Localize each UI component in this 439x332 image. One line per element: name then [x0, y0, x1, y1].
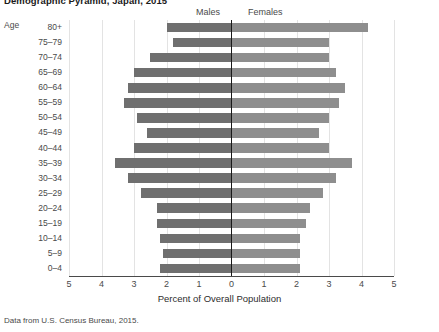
- bar-male: [128, 173, 232, 183]
- y-axis-label: 0–4: [48, 263, 62, 273]
- chart-title: Demographic Pyramid, Japan, 2015: [4, 0, 167, 6]
- bar-female: [232, 264, 300, 274]
- bar-male: [147, 128, 232, 138]
- bar-female: [232, 98, 339, 108]
- bar-female: [232, 38, 330, 48]
- y-axis-label: 10–14: [38, 233, 62, 243]
- bar-male: [160, 234, 232, 244]
- x-axis-tick-labels: 54321012345: [69, 279, 394, 293]
- bar-male: [160, 264, 232, 274]
- bar-female: [232, 53, 330, 63]
- bar-male: [150, 53, 231, 63]
- bar-female: [232, 158, 352, 168]
- bar-male: [115, 158, 232, 168]
- bar-male: [134, 68, 232, 78]
- bar-male: [163, 249, 231, 259]
- y-axis-label: 40–44: [38, 143, 62, 153]
- bar-male: [157, 203, 232, 213]
- y-axis-label: 25–29: [38, 188, 62, 198]
- y-axis-label: 45–49: [38, 127, 62, 137]
- y-axis-label: 20–24: [38, 203, 62, 213]
- y-axis-label: 35–39: [38, 158, 62, 168]
- y-axis-label: 50–54: [38, 112, 62, 122]
- bar-male: [167, 23, 232, 33]
- bar-female: [232, 143, 330, 153]
- source-note: Data from U.S. Census Bureau, 2015.: [4, 316, 139, 325]
- x-axis-tick-label: 1: [196, 279, 201, 289]
- bar-female: [232, 128, 320, 138]
- y-axis-label: 60–64: [38, 82, 62, 92]
- bar-male: [137, 113, 231, 123]
- center-axis-line: [231, 20, 233, 276]
- y-axis-labels: 80+75–7970–7465–6960–6455–5950–5445–4940…: [0, 20, 66, 276]
- bar-male: [124, 98, 231, 108]
- bar-female: [232, 173, 336, 183]
- legend-label-females: Females: [248, 7, 283, 17]
- bar-male: [128, 83, 232, 93]
- bar-female: [232, 83, 346, 93]
- x-axis-tick-label: 4: [99, 279, 104, 289]
- bar-female: [232, 234, 300, 244]
- y-axis-label: 75–79: [38, 37, 62, 47]
- bar-female: [232, 188, 323, 198]
- bar-female: [232, 68, 336, 78]
- bar-female: [232, 249, 300, 259]
- gridline: [394, 20, 395, 276]
- x-axis-tick-label: 0: [229, 279, 234, 289]
- x-axis-tick-label: 3: [326, 279, 331, 289]
- y-axis-label: 70–74: [38, 52, 62, 62]
- y-axis-label: 15–19: [38, 218, 62, 228]
- x-axis-tick-label: 5: [66, 279, 71, 289]
- chart-legend: Males Females: [0, 7, 439, 20]
- y-axis-label: 30–34: [38, 173, 62, 183]
- x-axis-line: [69, 276, 394, 277]
- y-axis-label: 5–9: [48, 248, 62, 258]
- x-axis-tick-label: 3: [131, 279, 136, 289]
- bar-female: [232, 23, 369, 33]
- bar-female: [232, 203, 310, 213]
- bar-male: [134, 143, 232, 153]
- y-axis-label: 80+: [48, 22, 62, 32]
- x-axis-tick-label: 1: [261, 279, 266, 289]
- bar-male: [157, 219, 232, 229]
- bar-male: [173, 38, 232, 48]
- y-axis-label: 55–59: [38, 97, 62, 107]
- legend-label-males: Males: [196, 7, 220, 17]
- x-axis-tick-label: 2: [294, 279, 299, 289]
- bar-male: [141, 188, 232, 198]
- plot-area: [69, 20, 394, 276]
- bar-female: [232, 219, 307, 229]
- y-axis-label: 65–69: [38, 67, 62, 77]
- x-axis-tick-label: 4: [359, 279, 364, 289]
- x-axis-title: Percent of Overall Population: [0, 293, 439, 304]
- x-axis-tick-label: 2: [164, 279, 169, 289]
- x-axis-tick-label: 5: [391, 279, 396, 289]
- bar-female: [232, 113, 330, 123]
